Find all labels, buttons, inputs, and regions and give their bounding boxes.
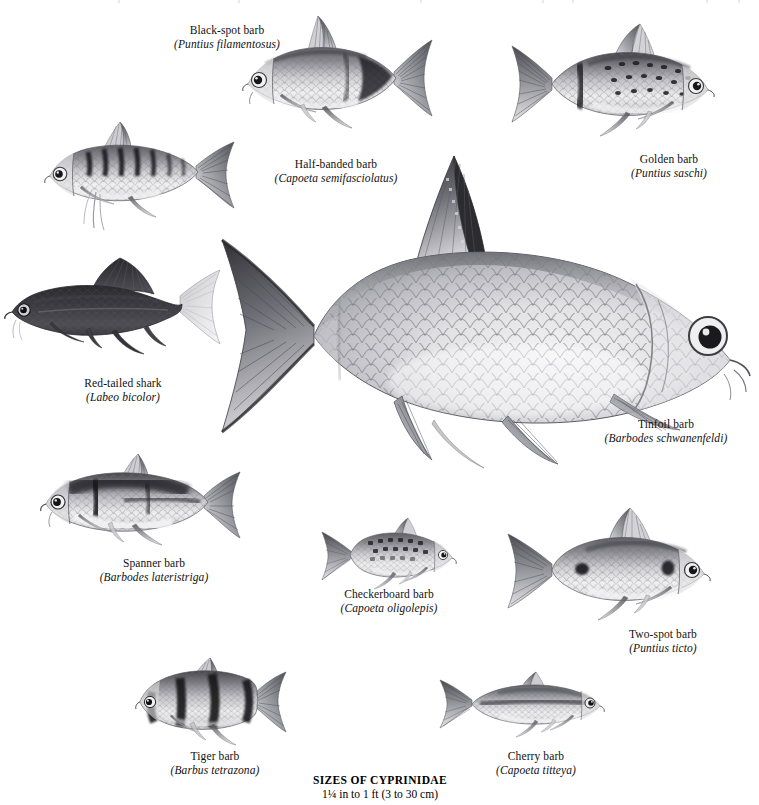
top-crop-artifact <box>572 0 574 3</box>
fish-illustration-red-tailed-shark <box>2 250 224 366</box>
top-crop-artifact <box>706 0 708 3</box>
species-common-name: Cherry barb <box>472 750 600 764</box>
species-scientific-name: (Puntius filamentosus) <box>152 38 302 52</box>
fish-illustration-two-spot-barb <box>490 502 728 628</box>
species-label-two-spot-barb: Two-spot barb (Puntius ticto) <box>600 628 726 655</box>
species-label-tinfoil-barb: Tinfoil barb (Barbodes schwanenfeldi) <box>586 418 746 445</box>
caption-size-range: 1¼ in to 1 ft (3 to 30 cm) <box>265 787 495 801</box>
fish-illustration-tiger-barb <box>124 654 300 750</box>
species-label-tiger-barb: Tiger barb (Barbus tetrazona) <box>148 750 282 777</box>
species-scientific-name: (Barbodes lateristriga) <box>80 571 228 585</box>
top-crop-artifact <box>118 0 120 3</box>
fish-illustration-golden-barb <box>496 18 732 152</box>
top-crop-artifact <box>542 0 544 3</box>
species-common-name: Checkerboard barb <box>318 588 460 602</box>
top-crop-artifact <box>420 0 422 3</box>
fish-illustration-spanner-barb <box>28 450 256 564</box>
species-common-name: Tiger barb <box>148 750 282 764</box>
top-crop-artifact <box>238 0 240 3</box>
species-scientific-name: (Puntius ticto) <box>600 642 726 656</box>
species-label-red-tailed-shark: Red-tailed shark (Labeo bicolor) <box>57 377 189 404</box>
fish-illustration-cherry-barb <box>428 666 616 750</box>
plate-caption: SIZES OF CYPRINIDAE 1¼ in to 1 ft (3 to … <box>265 773 495 802</box>
species-label-black-spot-barb: Black-spot barb (Puntius filamentosus) <box>152 24 302 51</box>
species-common-name: Spanner barb <box>80 557 228 571</box>
species-label-checkerboard-barb: Checkerboard barb (Capoeta oligolepis) <box>318 588 460 615</box>
species-common-name: Tinfoil barb <box>586 418 746 432</box>
species-common-name: Black-spot barb <box>152 24 302 38</box>
illustration-plate: Black-spot barb (Puntius filamentosus) <box>0 0 759 805</box>
species-scientific-name: (Barbus tetrazona) <box>148 764 282 778</box>
species-common-name: Red-tailed shark <box>57 377 189 391</box>
species-scientific-name: (Barbodes schwanenfeldi) <box>586 432 746 446</box>
species-label-spanner-barb: Spanner barb (Barbodes lateristriga) <box>80 557 228 584</box>
species-scientific-name: (Capoeta oligolepis) <box>318 602 460 616</box>
species-common-name: Two-spot barb <box>600 628 726 642</box>
caption-title: SIZES OF CYPRINIDAE <box>265 773 495 787</box>
top-crop-artifact <box>738 0 740 3</box>
species-scientific-name: (Labeo bicolor) <box>57 391 189 405</box>
